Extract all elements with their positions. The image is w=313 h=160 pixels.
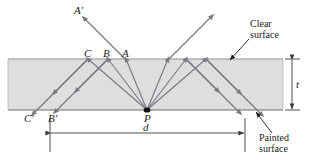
annotation-painted-surface: Painted surface (259, 132, 289, 154)
label-b: B (103, 48, 110, 59)
escaping-ray-right (166, 16, 212, 62)
leader-clear-surface (230, 39, 249, 60)
annotation-clear-surface-line1: Clear (250, 18, 279, 29)
label-d: d (143, 122, 149, 133)
label-a-prime: A′ (74, 5, 83, 16)
annotation-clear-surface-line2: surface (250, 29, 279, 40)
clear-slab (8, 59, 283, 111)
annotation-clear-surface: Clear surface (250, 18, 279, 40)
label-c: C (84, 48, 91, 59)
label-b-prime: B′ (48, 113, 57, 124)
optics-figure: A′ A B C B′ C′ P d t Clear surface Paint… (0, 0, 313, 160)
leader-painted-surface (256, 112, 272, 133)
label-a: A (122, 48, 129, 59)
annotation-painted-surface-line2: surface (259, 143, 289, 154)
label-c-prime: C′ (24, 113, 34, 124)
annotation-painted-surface-line1: Painted (259, 132, 289, 143)
label-t: t (296, 79, 299, 90)
